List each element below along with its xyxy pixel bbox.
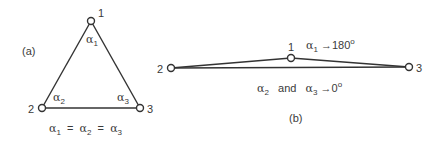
node-2-b (168, 65, 175, 72)
panel-a-caption: α1 = α2 = α3 (49, 122, 122, 136)
equals-sign: = (67, 122, 73, 134)
angle-value: 0 (332, 82, 338, 94)
angle-alpha1-a: α1 (86, 33, 98, 47)
alpha-subscript: 3 (313, 88, 317, 97)
edge-1-3-a (91, 21, 140, 108)
node-2-a (39, 105, 46, 112)
degree-symbol: o (350, 37, 354, 46)
edge-1-2-a (42, 21, 91, 108)
angle-alpha2-a: α2 (53, 91, 65, 105)
equals-sign: = (98, 122, 104, 134)
alpha-subscript: 3 (118, 128, 122, 137)
alpha-symbol: α (306, 82, 313, 95)
panel-a-label: (a) (22, 45, 35, 57)
bottom-annotation-b: α2 and α3 →0o (257, 82, 342, 96)
alpha-subscript: 2 (60, 97, 64, 106)
alpha-symbol: α (80, 122, 87, 135)
alpha-subscript: 3 (124, 97, 128, 106)
node-1-a (88, 18, 95, 25)
node-1-a-label: 1 (98, 7, 104, 19)
panel-b-label: (b) (289, 112, 302, 124)
degree-symbol: o (338, 80, 342, 89)
right-arrow-icon: → (321, 39, 332, 51)
edge-1-3-b (291, 58, 409, 67)
alpha-subscript: 1 (56, 128, 60, 137)
node-3-a (137, 105, 144, 112)
angle-alpha3-a: α3 (117, 91, 129, 105)
alpha-subscript: 2 (264, 88, 268, 97)
alpha-subscript: 1 (313, 45, 317, 54)
and-text: and (278, 82, 296, 94)
node-3-a-label: 3 (147, 103, 153, 115)
right-arrow-icon: → (321, 82, 332, 94)
edge-2-3-b (171, 67, 409, 68)
node-2-a-label: 2 (28, 103, 34, 115)
angle-value: 180 (332, 39, 350, 51)
node-1-b (288, 55, 295, 62)
nodes-b (168, 55, 413, 72)
alpha-symbol: α (110, 122, 117, 135)
node-3-b (406, 64, 413, 71)
node-3-b-label: 3 (416, 62, 422, 74)
node-2-b-label: 2 (157, 63, 163, 75)
edge-2-1-b (171, 58, 291, 68)
alpha-subscript: 2 (87, 128, 91, 137)
alpha-subscript: 1 (93, 39, 97, 48)
node-1-b-label: 1 (288, 41, 294, 53)
top-annotation-b: α1 →180o (306, 39, 355, 53)
